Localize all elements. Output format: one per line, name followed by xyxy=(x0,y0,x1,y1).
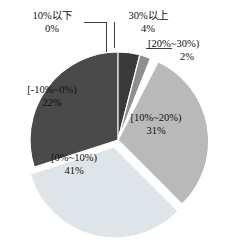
pie-label-over30-category: 30%以上 xyxy=(112,10,184,23)
pie-label-20-30-percent: 2% xyxy=(148,51,226,64)
pie-label-10-20-percent: 31% xyxy=(112,125,200,138)
pie-label-20-30-category: [20%~30%) xyxy=(148,38,234,51)
pie-label-10-20-category: [10%~20%) xyxy=(112,112,200,125)
pie-label-below10: 10%以下 0% xyxy=(16,10,88,35)
pie-label-0-10: [0%~10%) 41% xyxy=(28,152,120,177)
pie-label-neg10-0-percent: 22% xyxy=(6,97,98,110)
pie-label-10-20: [10%~20%) 31% xyxy=(112,112,200,137)
pie-label-over30-percent: 4% xyxy=(112,23,184,36)
pie-label-0-10-percent: 41% xyxy=(28,165,120,178)
pie-label-below10-percent: 0% xyxy=(16,23,88,36)
pie-label-below10-category: 10%以下 xyxy=(16,10,88,23)
pie-label-0-10-category: [0%~10%) xyxy=(28,152,120,165)
pie-label-neg10-0: [-10%~0%) 22% xyxy=(6,84,98,109)
pie-label-over30: 30%以上 4% xyxy=(112,10,184,35)
pie-label-20-30: [20%~30%) 2% xyxy=(148,38,234,63)
pie-chart: 10%以下 0% 30%以上 4% [20%~30%) 2% [-10%~0%)… xyxy=(0,0,236,240)
pie-label-neg10-0-category: [-10%~0%) xyxy=(6,84,98,97)
